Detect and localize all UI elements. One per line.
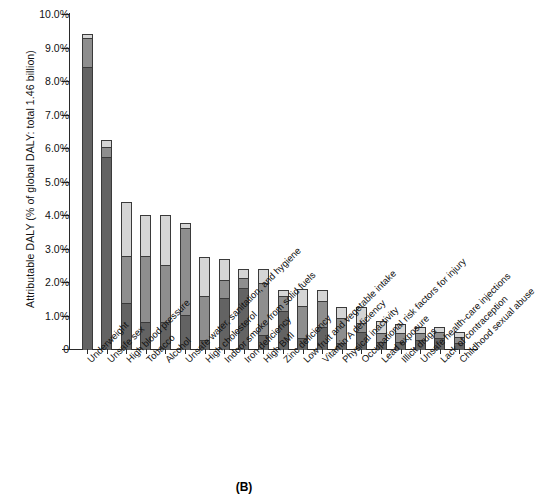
bar-segment-middle-income-countries [141, 256, 150, 321]
bar-childhood-sexual-abuse[interactable] [454, 332, 465, 349]
x-tick-mark [283, 349, 284, 354]
y-tick-label: 7.0% [13, 109, 69, 121]
bar-segment-high-income-countries [161, 216, 170, 265]
x-tick-mark [126, 349, 127, 354]
bar-segment-low-income-countries [318, 327, 327, 350]
bar-segment-middle-income-countries [337, 318, 346, 343]
bar-unsafe-sex[interactable] [101, 140, 112, 349]
bar-unsafe-water-sanitation-and-hygiene[interactable] [180, 223, 191, 349]
bar-segment-low-income-countries [279, 311, 288, 350]
bar-segment-middle-income-countries [416, 333, 425, 340]
bar-lead-exposure[interactable] [376, 321, 387, 349]
bar-segment-middle-income-countries [122, 256, 131, 303]
y-tick-label: 3.0% [13, 243, 69, 255]
bar-segment-middle-income-countries [161, 265, 170, 322]
x-tick-mark [440, 349, 441, 354]
y-tick-label: 5.0% [13, 176, 69, 188]
bar-segment-low-income-countries [141, 322, 150, 350]
bar-segment-middle-income-countries [239, 278, 248, 288]
x-tick-mark [322, 349, 323, 354]
x-tick-mark [87, 349, 88, 354]
bar-segment-middle-income-countries [83, 38, 92, 66]
bar-segment-middle-income-countries [435, 332, 444, 339]
bar-low-fruit-and-vegetable-intake[interactable] [297, 289, 308, 349]
bar-segment-middle-income-countries [279, 296, 288, 311]
bar-segment-middle-income-countries [181, 228, 190, 315]
x-tick-mark [420, 349, 421, 354]
x-tick-mark [361, 349, 362, 354]
bar-segment-low-income-countries [181, 315, 190, 350]
bar-segment-low-income-countries [220, 298, 229, 350]
y-tick-label: 1.0% [13, 310, 69, 322]
bar-physical-inactivity[interactable] [336, 307, 347, 349]
bar-segment-high-income-countries [318, 291, 327, 301]
bar-lack-of-contraception[interactable] [434, 327, 445, 349]
bar-segment-low-income-countries [102, 157, 111, 350]
x-tick-mark [303, 349, 304, 354]
bar-segment-middle-income-countries [220, 280, 229, 298]
x-tick-mark [244, 349, 245, 354]
y-axis-ticks: 10.0%9.0%8.0%7.0%6.0%5.0%4.0%3.0%2.0%1.0… [0, 0, 69, 360]
bar-segment-middle-income-countries [200, 296, 209, 340]
x-tick-mark [224, 349, 225, 354]
bar-iron-deficiency[interactable] [238, 269, 249, 349]
bar-segment-high-income-countries [377, 322, 386, 334]
bar-segment-middle-income-countries [455, 337, 464, 344]
bar-segment-low-income-countries [259, 335, 268, 350]
bar-segment-low-income-countries [239, 288, 248, 350]
bar-segment-low-income-countries [357, 332, 366, 350]
bar-vitamin-a-deficiency[interactable] [317, 290, 328, 349]
bar-segment-high-income-countries [200, 258, 209, 297]
y-tick-label: 4.0% [13, 209, 69, 221]
bar-segment-middle-income-countries [298, 306, 307, 338]
bar-segment-middle-income-countries [318, 301, 327, 326]
bar-underweight[interactable] [82, 34, 93, 349]
y-tick-label: 10.0% [13, 8, 69, 20]
bar-segment-high-income-countries [102, 141, 111, 148]
bar-segment-middle-income-countries [259, 283, 268, 335]
bar-segment-middle-income-countries [102, 147, 111, 157]
bar-segment-high-income-countries [122, 203, 131, 257]
x-tick-mark [205, 349, 206, 354]
bar-unsafe-health-care-injections[interactable] [415, 327, 426, 349]
y-tick-label: 2.0% [13, 276, 69, 288]
bar-segment-middle-income-countries [357, 323, 366, 331]
bar-high-bmi[interactable] [258, 269, 269, 349]
bar-indoor-smoke-from-solid-fuels[interactable] [219, 259, 230, 349]
bar-segment-low-income-countries [83, 67, 92, 350]
bar-illicit-drugs[interactable] [395, 324, 406, 349]
panel-caption: (B) [0, 480, 488, 494]
bar-zinc-deficiency[interactable] [278, 290, 289, 349]
x-tick-mark [263, 349, 264, 354]
bar-high-blood-pressure[interactable] [121, 202, 132, 349]
bar-segment-high-income-countries [298, 290, 307, 307]
bar-segment-high-income-countries [220, 260, 229, 280]
y-tick-label: 9.0% [13, 42, 69, 54]
bar-tobacco[interactable] [140, 215, 151, 349]
x-tick-mark [165, 349, 166, 354]
x-tick-mark [107, 349, 108, 354]
bar-occupational-risk-factors-for-injury[interactable] [356, 307, 367, 349]
bar-segment-middle-income-countries [396, 333, 405, 341]
bar-segment-middle-income-countries [377, 333, 386, 341]
bar-segment-low-income-countries [161, 322, 170, 350]
bar-segment-high-income-countries [141, 216, 150, 256]
y-tick-label: 8.0% [13, 75, 69, 87]
y-tick-label: 6.0% [13, 142, 69, 154]
x-tick-mark [342, 349, 343, 354]
y-tick-label: 0 [13, 343, 69, 355]
bar-segment-high-income-countries [396, 325, 405, 333]
bar-alcohol[interactable] [160, 215, 171, 349]
x-tick-mark [401, 349, 402, 354]
bar-segment-high-income-countries [357, 308, 366, 323]
bar-series-container [69, 0, 478, 349]
x-tick-mark [185, 349, 186, 354]
x-tick-mark [146, 349, 147, 354]
bar-segment-low-income-countries [122, 303, 131, 350]
bar-segment-high-income-countries [337, 308, 346, 318]
bar-segment-high-income-countries [259, 270, 268, 283]
x-tick-mark [381, 349, 382, 354]
x-tick-mark [459, 349, 460, 354]
bar-high-cholesterol[interactable] [199, 257, 210, 349]
